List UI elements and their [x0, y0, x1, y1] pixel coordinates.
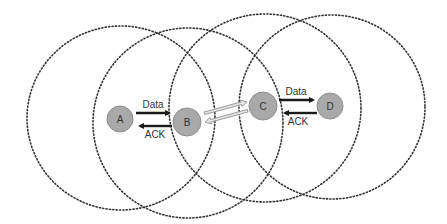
ack-label-ab: ACK	[145, 129, 166, 140]
network-diagram: Data ACK Data ACK A B C D	[0, 0, 447, 224]
node-b-label: B	[184, 117, 191, 128]
node-c-label: C	[259, 101, 266, 112]
node-c: C	[249, 92, 277, 120]
ack-label-cd: ACK	[288, 116, 309, 127]
node-a-label: A	[117, 114, 124, 125]
node-a: A	[107, 106, 133, 132]
node-d: D	[317, 93, 343, 119]
data-label-cd: Data	[285, 86, 307, 97]
node-b: B	[173, 108, 201, 136]
node-d-label: D	[326, 101, 333, 112]
data-label-ab: Data	[142, 99, 164, 110]
